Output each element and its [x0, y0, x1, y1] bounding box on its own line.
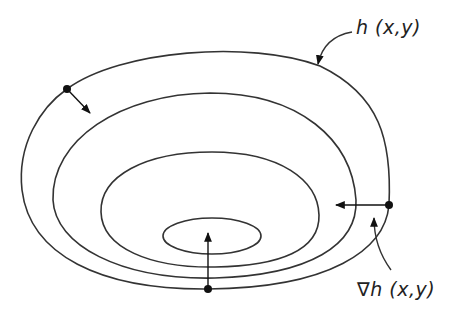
contour-diagram	[0, 0, 466, 316]
function-label-pointer	[318, 32, 352, 64]
point-bottom	[204, 285, 212, 293]
function-label: h (x,y)	[356, 16, 421, 38]
gradient-arrow-left	[67, 89, 90, 113]
gradient-label-text: ∇h (x,y)	[357, 278, 435, 300]
point-right	[385, 201, 393, 209]
contour-third	[101, 152, 319, 267]
contour-second	[53, 93, 356, 278]
contour-inner	[163, 218, 261, 254]
function-label-text: h (x,y)	[356, 16, 421, 38]
gradient-label: ∇h (x,y)	[357, 278, 435, 300]
point-left	[63, 85, 71, 93]
